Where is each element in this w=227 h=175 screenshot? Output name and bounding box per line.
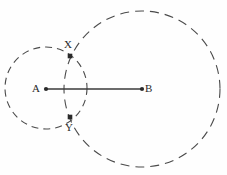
point-label-a: A (32, 83, 40, 94)
point-label-b: B (145, 83, 153, 94)
point-label-y: Y (65, 122, 73, 133)
point-b-dot (140, 87, 144, 91)
point-label-x: X (64, 39, 72, 50)
point-a-dot (44, 87, 48, 91)
point-y-dot (68, 115, 73, 120)
point-x-dot (68, 54, 73, 59)
geometry-figure-canvas: A B X Y (0, 0, 227, 175)
